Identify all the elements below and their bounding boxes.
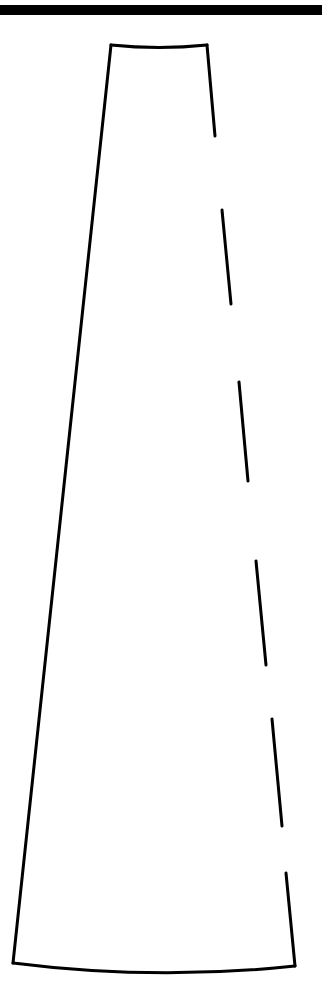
right-edge-dashed (207, 45, 295, 966)
right-edge-dash-5 (272, 719, 282, 826)
right-edge-dash-3 (239, 382, 248, 481)
left-edge (13, 45, 111, 963)
top-edge (111, 45, 207, 48)
right-edge-dash-6 (286, 873, 295, 966)
right-edge-dash-1 (207, 45, 215, 136)
tapered-shape-diagram (0, 0, 322, 1008)
right-edge-dash-4 (256, 561, 266, 665)
right-edge-dash-2 (222, 210, 231, 304)
bottom-edge (13, 963, 295, 973)
